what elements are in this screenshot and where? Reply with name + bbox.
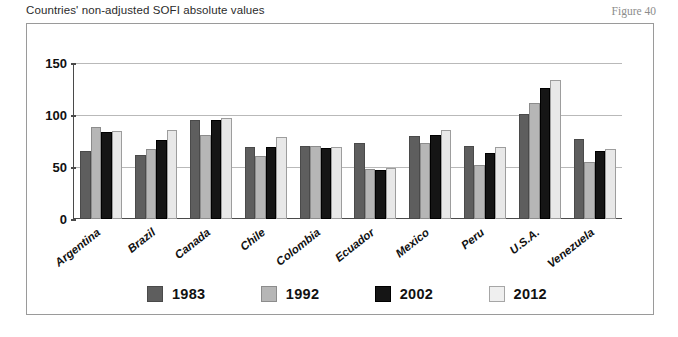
y-axis-tick-mark <box>71 167 76 169</box>
x-axis-category-label-text: Chile <box>238 226 268 253</box>
legend-label: 1992 <box>286 286 319 302</box>
bar-group <box>458 63 513 219</box>
legend-item-2002[interactable]: 2002 <box>375 286 433 302</box>
bar-group <box>403 63 458 219</box>
x-axis-category-label-text: Argentina <box>53 226 103 268</box>
y-axis-tick-mark <box>71 115 76 117</box>
bar <box>190 120 201 219</box>
bar <box>101 132 112 219</box>
legend-swatch-icon <box>375 286 391 302</box>
bar <box>365 169 376 219</box>
y-axis-tick-mark <box>71 63 76 65</box>
bar-group <box>512 63 567 219</box>
bar <box>135 155 146 219</box>
bar <box>310 146 321 219</box>
bar <box>300 146 311 219</box>
bar <box>276 137 287 219</box>
bar <box>146 149 157 219</box>
bar <box>200 135 211 219</box>
legend-swatch-icon <box>147 286 163 302</box>
y-axis-tick-label: 0 <box>31 212 67 227</box>
y-axis-tick-labels: 050100150 <box>27 63 67 219</box>
bar-groups <box>74 63 622 219</box>
bar <box>321 148 332 219</box>
bar <box>464 146 475 219</box>
bar-group <box>238 63 293 219</box>
chart-plot-wrapper: 050100150 ArgentinaBrazilCanadaChileColo… <box>27 24 655 316</box>
bar <box>485 153 496 219</box>
x-axis-category-label-text: Brazil <box>126 226 158 255</box>
legend-label: 1983 <box>172 286 205 302</box>
bar-group <box>567 63 622 219</box>
legend-item-1983[interactable]: 1983 <box>147 286 205 302</box>
x-axis-label-cell: Mexico <box>403 220 458 280</box>
y-axis-tick-label: 150 <box>31 56 67 71</box>
legend-swatch-icon <box>489 286 505 302</box>
bar <box>211 120 222 219</box>
bar <box>519 114 530 219</box>
bar <box>430 135 441 219</box>
bar <box>540 88 551 219</box>
bar <box>167 130 178 219</box>
y-axis-tick-label: 50 <box>31 160 67 175</box>
bar <box>255 156 266 219</box>
figure-caption: Countries' non-adjusted SOFI absolute va… <box>26 4 265 16</box>
legend-swatch-icon <box>261 286 277 302</box>
bar <box>80 151 91 219</box>
x-axis-label-cell: Peru <box>458 220 513 280</box>
bar <box>221 118 232 219</box>
x-axis-label-cell: Venezuela <box>567 220 622 280</box>
bar <box>474 165 485 219</box>
bar <box>245 147 256 219</box>
bar <box>266 147 277 219</box>
bar <box>595 151 606 219</box>
bar <box>375 170 386 219</box>
x-axis-category-label-text: Peru <box>459 226 487 251</box>
figure-number-label: Figure 40 <box>612 5 656 17</box>
bar <box>574 139 585 219</box>
bar-group <box>293 63 348 219</box>
bar <box>156 140 167 219</box>
legend-item-1992[interactable]: 1992 <box>261 286 319 302</box>
legend-item-2012[interactable]: 2012 <box>489 286 547 302</box>
y-axis-tick-label: 100 <box>31 108 67 123</box>
bar <box>529 103 540 219</box>
x-axis-category-label-text: U.S.A. <box>507 226 541 256</box>
chart-legend: 1983199220022012 <box>147 282 547 306</box>
bar <box>91 127 102 219</box>
x-axis-category-labels: ArgentinaBrazilCanadaChileColombiaEcuado… <box>74 220 622 280</box>
x-axis-label-cell: Canada <box>184 220 239 280</box>
bar <box>420 143 431 219</box>
x-axis-label-cell: Argentina <box>74 220 129 280</box>
bar <box>550 80 561 219</box>
chart-frame: 050100150 ArgentinaBrazilCanadaChileColo… <box>26 23 654 315</box>
figure-page: Countries' non-adjusted SOFI absolute va… <box>0 0 678 337</box>
legend-label: 2012 <box>514 286 547 302</box>
bar <box>584 162 595 219</box>
bar-group <box>74 63 129 219</box>
legend-label: 2002 <box>400 286 433 302</box>
bar-group <box>184 63 239 219</box>
y-axis-tick-mark <box>71 219 76 221</box>
bar <box>495 147 506 219</box>
